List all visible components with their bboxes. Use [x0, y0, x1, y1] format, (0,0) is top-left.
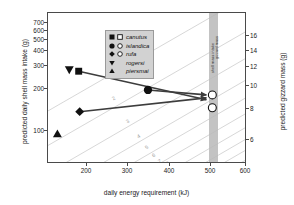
circle-open-icon — [117, 51, 123, 57]
legend-symbols-rogersi — [109, 60, 126, 66]
legend-symbols-canutus — [109, 34, 126, 40]
x-tickmark — [210, 163, 211, 166]
y-tickmark-right — [246, 50, 249, 51]
x-axis-ticks: 200 300 400 500 600 — [0, 167, 294, 181]
legend: canutus islandica — [105, 30, 154, 79]
y-axis-left-title: predicted daily shell mass intake (g) — [21, 22, 28, 162]
square-filled-icon — [109, 34, 115, 40]
legend-item-rufa: rufa — [109, 50, 149, 59]
x-tick-200: 200 — [71, 167, 101, 174]
y-axis-right-title: predicted gizzard mass (g) — [279, 22, 286, 162]
plot-area: shell mass intake gizzard mass — [47, 12, 246, 163]
legend-label-canutus: canutus — [126, 34, 147, 40]
y-tick-right-6: 6 — [250, 136, 254, 143]
x-tickmark — [127, 163, 128, 166]
x-tick-600: 600 — [230, 167, 260, 174]
triangle-down-filled-icon — [109, 60, 115, 66]
y-tick-right-12: 12 — [250, 63, 257, 70]
legend-item-piersmai: piersmai — [109, 67, 149, 76]
legend-symbols-rufa — [109, 51, 126, 57]
marker-islandica-predicted — [208, 91, 216, 99]
legend-symbols-islandica — [109, 43, 126, 49]
x-tickmark — [245, 163, 246, 166]
x-tickmark — [169, 163, 170, 166]
legend-label-rogersi: rogersi — [126, 60, 144, 66]
legend-label-piersmai: piersmai — [126, 68, 149, 74]
marker-rufa-current — [75, 107, 84, 116]
circle-open-icon — [117, 43, 123, 49]
arrow-rufa — [80, 98, 207, 112]
y-tickmark-right — [246, 85, 249, 86]
marker-islandica-current — [144, 86, 152, 94]
legend-symbols-piersmai — [109, 68, 126, 74]
y-tick-right-8: 8 — [250, 105, 254, 112]
x-tick-300: 300 — [112, 167, 142, 174]
y-tickmark-right — [246, 108, 249, 109]
arrow-islandica — [148, 90, 206, 95]
legend-label-rufa: rufa — [126, 51, 136, 57]
marker-canutus-predicted — [208, 104, 216, 112]
x-tickmark — [86, 163, 87, 166]
y-tick-right-14: 14 — [250, 47, 257, 54]
marker-canutus-current — [75, 68, 82, 75]
x-axis-title: daily energy requirement (kJ) — [47, 189, 246, 196]
y-tickmark-right — [246, 139, 249, 140]
triangle-up-filled-icon — [109, 68, 115, 74]
y-tickmark-right — [246, 66, 249, 67]
square-open-icon — [117, 34, 123, 40]
legend-label-islandica: islandica — [126, 43, 149, 49]
y-tickmark-right — [246, 35, 249, 36]
legend-item-islandica: islandica — [109, 42, 149, 51]
marker-piersmai-current — [53, 129, 62, 137]
y-tick-right-10: 10 — [250, 82, 257, 89]
marker-rogersi-current — [65, 66, 74, 74]
x-tick-400: 400 — [154, 167, 184, 174]
legend-item-rogersi: rogersi — [109, 59, 149, 68]
circle-filled-icon — [109, 43, 115, 49]
y-tick-right-16: 16 — [250, 32, 257, 39]
figure-container: 700 600 500 400 300 200 100 16 14 12 10 … — [0, 0, 294, 205]
x-tick-500: 500 — [195, 167, 225, 174]
diamond-filled-icon — [109, 51, 115, 57]
legend-item-canutus: canutus — [109, 33, 149, 42]
